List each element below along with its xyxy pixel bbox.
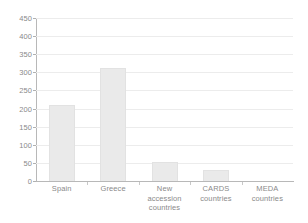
- y-axis-tick-label: 400: [19, 32, 32, 41]
- y-axis-tick-label: 0: [28, 177, 32, 186]
- y-axis-tick-label: 350: [19, 50, 32, 59]
- bar-slot: [190, 18, 241, 181]
- x-axis-category-label: CARDScountries: [190, 184, 241, 213]
- x-axis-category-label-line: countries: [190, 194, 241, 204]
- y-axis-tick-label: 100: [19, 140, 32, 149]
- y-axis-tick-label: 150: [19, 122, 32, 131]
- x-axis-category-label-line: Greece: [87, 184, 138, 194]
- bar[interactable]: [100, 68, 126, 181]
- bar[interactable]: [203, 170, 229, 181]
- y-axis-tick-mark: [33, 109, 36, 110]
- x-axis-category-labels: SpainGreeceNewaccessioncountriesCARDScou…: [36, 184, 293, 213]
- bar-slot: [36, 18, 87, 181]
- x-axis-category-label-line: New: [139, 184, 190, 194]
- y-axis-tick-mark: [33, 163, 36, 164]
- bar-slot: [139, 18, 190, 181]
- y-axis-tick-label: 250: [19, 86, 32, 95]
- x-axis-category-label: MEDAcountries: [242, 184, 293, 213]
- x-axis-category-label-line: Spain: [36, 184, 87, 194]
- x-axis-category-label: Newaccessioncountries: [139, 184, 190, 213]
- x-axis-category-label-line: countries: [139, 203, 190, 213]
- y-axis-tick-mark: [33, 127, 36, 128]
- bar-slot: [87, 18, 138, 181]
- y-axis-tick-mark: [33, 54, 36, 55]
- y-axis-tick-mark: [33, 145, 36, 146]
- y-axis-tick-label: 50: [23, 158, 32, 167]
- x-axis-category-label-line: MEDA: [242, 184, 293, 194]
- bar[interactable]: [49, 105, 75, 181]
- y-axis-tick-mark: [33, 72, 36, 73]
- x-axis-category-label: Greece: [87, 184, 138, 213]
- plot-area: [36, 18, 293, 181]
- x-axis-category-label-line: accession: [139, 194, 190, 204]
- x-axis-category-label-line: CARDS: [190, 184, 241, 194]
- y-axis-tick-label: 450: [19, 14, 32, 23]
- y-axis-tick-mark: [33, 36, 36, 37]
- bar[interactable]: [152, 162, 178, 181]
- x-axis-category-label-line: countries: [242, 194, 293, 204]
- y-axis-tick-mark: [33, 90, 36, 91]
- gridline: [36, 181, 293, 182]
- y-axis-tick-mark: [33, 18, 36, 19]
- y-axis-tick-label: 300: [19, 68, 32, 77]
- bar-slot: [242, 18, 293, 181]
- x-axis-category-label: Spain: [36, 184, 87, 213]
- bar-series: [36, 18, 293, 181]
- y-axis-tick-mark: [33, 181, 36, 182]
- y-axis-tick-label: 200: [19, 104, 32, 113]
- bar-chart: 450400350300250200150100500 SpainGreeceN…: [0, 0, 308, 223]
